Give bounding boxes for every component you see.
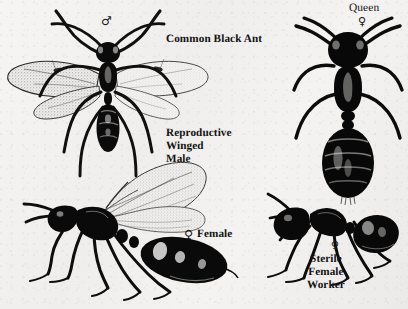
label-female: Female xyxy=(197,228,232,241)
label-common-black-ant: Common Black Ant xyxy=(166,33,262,46)
female-symbol-queen: ♀ xyxy=(358,15,366,28)
female-wings xyxy=(102,162,206,232)
label-queen: Queen xyxy=(349,2,379,15)
queen-body xyxy=(322,32,374,205)
label-reproductive-winged-male: Reproductive Winged Male xyxy=(166,127,232,165)
female-symbol-worker: ♀ xyxy=(331,239,339,252)
male-symbol: ♂ xyxy=(101,14,112,28)
figure-queen-dorsal xyxy=(288,18,408,208)
illustration-plate: ♂ Common Black Ant Reproductive Winged M… xyxy=(0,0,408,309)
label-sterile-female-worker: Sterile Female Worker xyxy=(307,253,345,291)
female-symbol-alate: ♀ xyxy=(184,227,193,242)
